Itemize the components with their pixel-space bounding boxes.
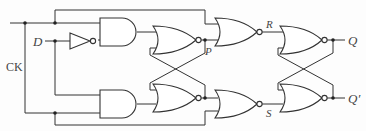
q-output-label: Q [348,34,357,47]
and-gate-bottom [100,90,136,118]
nor-gate-q [280,26,327,54]
and-gate-top [100,18,136,46]
circuit-svg [0,0,366,131]
clock-label: CK [6,61,23,73]
r-signal-label: R [266,19,273,30]
circuit-diagram: CK D P R S Q Q′ [0,0,366,131]
nor-gate-q-bar [280,84,327,112]
q-bar-output-label: Q′ [348,92,360,105]
inverter-gate [70,33,96,49]
nor-gate-s [215,90,262,118]
data-input-label: D [33,35,42,48]
nor-gate-latch1-bottom [153,84,201,112]
s-signal-label: S [266,108,272,119]
nor-gate-r [215,18,262,46]
p-node-label: P [205,46,212,57]
nor-gate-latch1-top [153,26,201,54]
